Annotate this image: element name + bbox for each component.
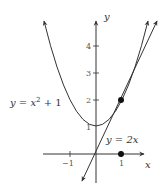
graph-canvas: −1 1 1 2 3 4 x y y = x2 + 1 y = 2x: [0, 0, 164, 193]
y-tick-label-3: 3: [86, 69, 91, 78]
y-tick-label-4: 4: [86, 42, 91, 51]
tangent-label: y = 2x: [105, 134, 139, 145]
x-tick-label-1: 1: [119, 159, 124, 168]
tangency-point: [118, 97, 124, 103]
y-tick-label-1: 1: [86, 123, 91, 132]
y-tick-label-2: 2: [86, 96, 91, 105]
x-tick-label-neg1: −1: [62, 159, 74, 168]
x-axis-point: [118, 151, 124, 157]
parabola-label: y = x2 + 1: [9, 96, 62, 108]
x-axis-label: x: [145, 159, 151, 170]
y-axis-label: y: [103, 11, 110, 22]
